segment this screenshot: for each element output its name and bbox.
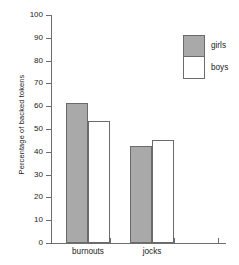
y-tick-label: 30 bbox=[19, 171, 43, 179]
bar-boys-jocks bbox=[152, 140, 174, 243]
x-tick-mark bbox=[66, 238, 67, 243]
y-tick-mark bbox=[46, 83, 51, 84]
x-tick-mark bbox=[174, 238, 175, 243]
y-tick-label: 60 bbox=[19, 102, 43, 110]
bar-girls-burnouts bbox=[66, 103, 88, 243]
y-tick-label: 40 bbox=[19, 148, 43, 156]
y-tick-mark bbox=[46, 129, 51, 130]
y-tick-label: 90 bbox=[19, 34, 43, 42]
x-tick-mark bbox=[130, 238, 131, 243]
y-tick-mark bbox=[46, 15, 51, 16]
y-tick-mark bbox=[46, 61, 51, 62]
y-tick-mark bbox=[46, 152, 51, 153]
y-tick-mark bbox=[46, 38, 51, 39]
bar-girls-jocks bbox=[130, 146, 152, 243]
bar-boys-burnouts bbox=[88, 121, 110, 243]
legend-label-boys: boys bbox=[211, 63, 228, 73]
y-tick-label: 20 bbox=[19, 193, 43, 201]
x-axis-line bbox=[51, 243, 226, 244]
y-tick-label: 100 bbox=[19, 11, 43, 19]
x-tick-mark bbox=[51, 238, 52, 243]
x-tick-mark bbox=[110, 238, 111, 243]
y-tick-label: 10 bbox=[19, 216, 43, 224]
legend-swatch-girls-icon bbox=[183, 35, 205, 57]
legend-label-girls: girls bbox=[211, 41, 226, 51]
x-group-label-jocks: jocks bbox=[127, 247, 177, 257]
y-tick-label: 70 bbox=[19, 79, 43, 87]
y-tick-mark bbox=[46, 106, 51, 107]
bar-chart: Percentage of backed tokens 100 90 80 70… bbox=[0, 0, 239, 265]
y-axis-line bbox=[51, 15, 52, 243]
y-tick-label: 0 bbox=[19, 239, 43, 247]
y-tick-mark bbox=[46, 220, 51, 221]
y-tick-label: 80 bbox=[19, 57, 43, 65]
y-tick-label: 50 bbox=[19, 125, 43, 133]
x-tick-mark bbox=[218, 238, 219, 243]
y-tick-mark bbox=[46, 175, 51, 176]
x-group-label-burnouts: burnouts bbox=[58, 247, 118, 257]
legend-swatch-boys-icon bbox=[183, 57, 205, 79]
y-tick-mark bbox=[46, 197, 51, 198]
